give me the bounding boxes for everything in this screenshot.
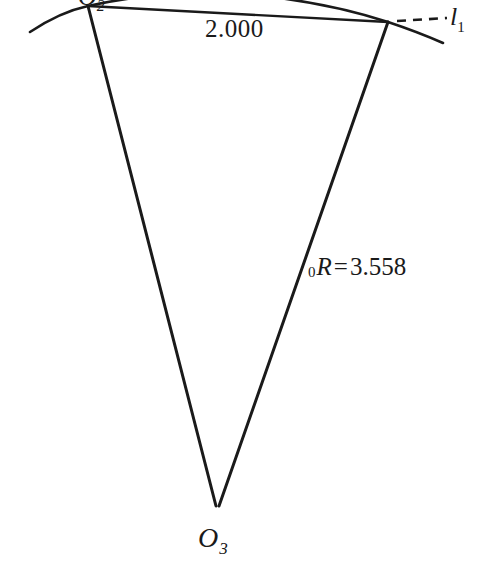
geometry-figure: 2.000 0R=3.558 O3 O2 l1 — [0, 0, 480, 586]
tangent-line-label: l1 — [450, 4, 465, 30]
chord-length-label: 2.000 — [205, 16, 264, 41]
diagram-canvas — [0, 0, 480, 586]
apex-vertex-label: O3 — [198, 524, 227, 552]
top-vertex-label: O2 — [78, 0, 105, 10]
top-vertex-subscript: 2 — [97, 0, 105, 14]
apex-vertex-letter: O — [198, 522, 218, 553]
tangent-line-subscript: 1 — [457, 19, 465, 35]
radius-label: 0R=3.558 — [308, 254, 406, 279]
radius-prefix-subscript: 0 — [308, 264, 317, 280]
radius-equals-sign: = — [332, 253, 350, 280]
top-vertex-letter: O — [78, 0, 97, 11]
dashed-tangent-extension — [397, 18, 447, 21]
apex-vertex-subscript: 3 — [219, 539, 228, 558]
radius-value: 3.558 — [350, 253, 406, 280]
radius-symbol: R — [317, 253, 332, 280]
left-radius-line — [88, 6, 216, 506]
